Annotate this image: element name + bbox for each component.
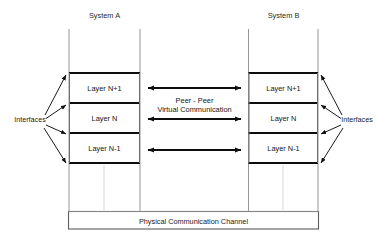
physical-channel-label: Physical Communication Channel (139, 217, 248, 226)
interface-leader-left-1 (45, 75, 66, 115)
peer-communication-line1: Peer - Peer (176, 96, 214, 105)
interface-leader-left-4 (44, 128, 66, 163)
system-b-layer-stack: Layer N+1 Layer N Layer N-1 (249, 73, 319, 163)
faint-guides (104, 165, 283, 210)
system-a-layer-stack: Layer N+1 Layer N Layer N-1 (69, 73, 140, 163)
interface-leader-left-3 (46, 125, 66, 134)
interfaces-left-group: Interfaces (14, 75, 66, 163)
interface-leader-right-1 (321, 75, 342, 115)
physical-channel-bar: Physical Communication Channel (69, 212, 319, 226)
layer-box-b-1-label: Layer N (271, 114, 297, 123)
interfaces-right-group: Interfaces (321, 75, 373, 163)
layer-box-b-2-label: Layer N-1 (267, 144, 299, 153)
interface-leader-right-4 (321, 128, 343, 163)
peer-communication-line2: Virtual Communication (157, 105, 231, 114)
diagram-canvas: System A System B Layer N+1 Layer N Laye… (0, 0, 385, 237)
interfaces-left-label: Interfaces (14, 115, 46, 124)
layer-box-b-0-label: Layer N+1 (266, 84, 300, 93)
interface-leader-right-3 (321, 125, 341, 134)
system-b-title: System B (268, 11, 300, 20)
interfaces-right-label: Interfaces (341, 115, 373, 124)
layer-box-a-2-label: Layer N-1 (88, 144, 120, 153)
osi-peer-layer-diagram: System A System B Layer N+1 Layer N Laye… (0, 0, 385, 237)
layer-box-a-0-label: Layer N+1 (87, 84, 121, 93)
layer-box-a-1-label: Layer N (92, 114, 118, 123)
system-a-title: System A (89, 11, 120, 20)
